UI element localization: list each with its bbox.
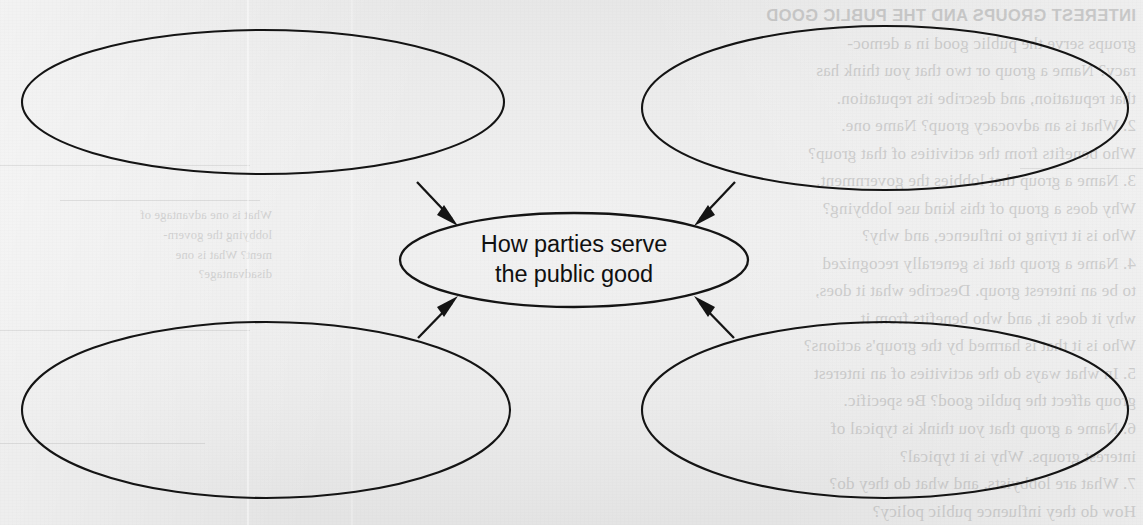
arrow-bottom-right-to-center (694, 296, 734, 338)
branch-ellipse-bottom-left[interactable] (22, 322, 510, 498)
arrow-bottom-left-to-center (418, 296, 458, 338)
center-ellipse[interactable] (400, 213, 748, 307)
branch-ellipse-top-right[interactable] (642, 26, 1128, 190)
arrow-top-left-to-center (417, 182, 458, 226)
arrow-top-right-to-center (694, 182, 735, 226)
arrowhead-icon (437, 205, 458, 226)
branch-ellipse-top-left[interactable] (22, 30, 504, 174)
center-label-line-2: the public good (495, 261, 653, 287)
center-label-line-1: How parties serve (481, 231, 667, 257)
scanned-page: INTEREST GROUPS AND THE PUBLIC GOOD grou… (0, 0, 1143, 525)
arrowhead-icon (694, 205, 715, 226)
concept-web-diagram: How parties serve the public good (0, 0, 1143, 525)
branch-ellipse-bottom-right[interactable] (642, 322, 1128, 498)
